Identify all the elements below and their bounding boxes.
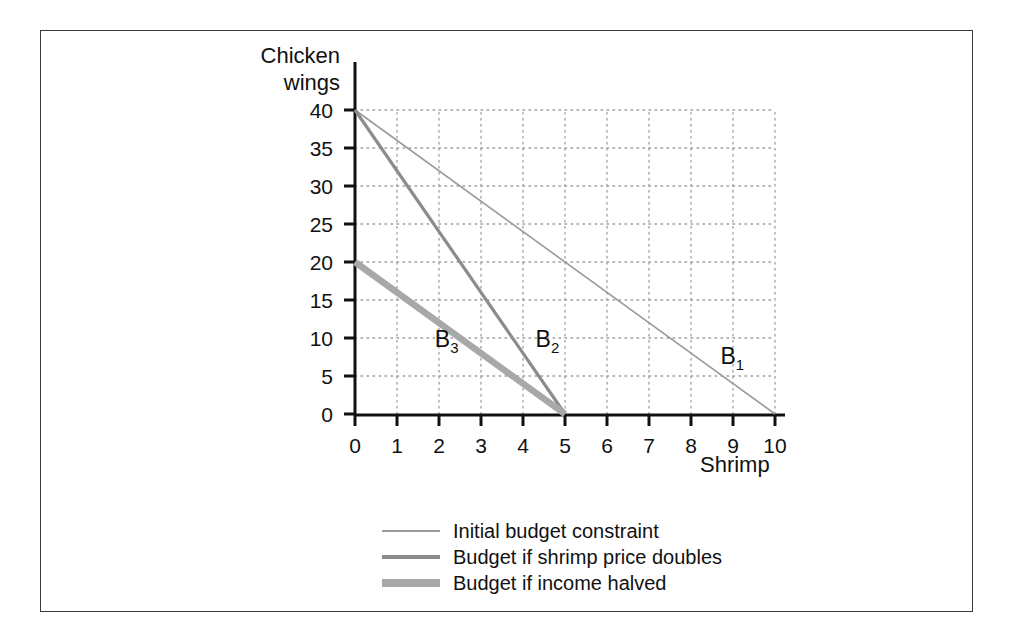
legend-item-label: Initial budget constraint — [453, 520, 659, 543]
chart-legend: Initial budget constraintBudget if shrim… — [382, 518, 722, 596]
x-tick-label-5: 5 — [545, 434, 585, 458]
y-tick-label-25: 25 — [289, 213, 333, 237]
y-tick-label-30: 30 — [289, 175, 333, 199]
y-tick-label-10: 10 — [289, 327, 333, 351]
y-axis-title: Chicken wings — [200, 42, 340, 96]
curve-label-subscript: 3 — [450, 338, 458, 355]
x-tick-label-8: 8 — [671, 434, 711, 458]
x-tick-label-6: 6 — [587, 434, 627, 458]
y-tick-label-5: 5 — [289, 365, 333, 389]
legend-line-swatch — [382, 530, 440, 532]
curve-label-base: B — [435, 326, 450, 352]
curve-label-base: B — [720, 343, 735, 369]
legend-item-3: Budget if income halved — [382, 570, 722, 596]
x-tick-label-0: 0 — [335, 434, 375, 458]
legend-item-2: Budget if shrimp price doubles — [382, 544, 722, 570]
legend-line-swatch — [382, 579, 440, 587]
legend-item-label: Budget if shrimp price doubles — [453, 546, 722, 569]
curve-label-base: B — [536, 326, 551, 352]
y-tick-label-0: 0 — [289, 403, 333, 427]
x-tick-label-7: 7 — [629, 434, 669, 458]
y-tick-label-15: 15 — [289, 289, 333, 313]
x-tick-label-4: 4 — [503, 434, 543, 458]
x-tick-label-2: 2 — [419, 434, 459, 458]
curve-label-B2: B2 — [536, 326, 560, 356]
curve-label-subscript: 1 — [736, 356, 744, 373]
legend-item-1: Initial budget constraint — [382, 518, 722, 544]
x-tick-label-3: 3 — [461, 434, 501, 458]
y-tick-label-20: 20 — [289, 251, 333, 275]
y-tick-label-40: 40 — [289, 99, 333, 123]
legend-item-label: Budget if income halved — [453, 572, 666, 595]
y-tick-label-35: 35 — [289, 137, 333, 161]
x-tick-label-9: 9 — [713, 434, 753, 458]
x-tick-label-10: 10 — [755, 434, 795, 458]
x-tick-label-1: 1 — [377, 434, 417, 458]
curve-label-subscript: 2 — [551, 338, 559, 355]
curve-label-B1: B1 — [720, 343, 744, 373]
legend-line-swatch — [382, 555, 440, 559]
curve-label-B3: B3 — [435, 326, 459, 356]
